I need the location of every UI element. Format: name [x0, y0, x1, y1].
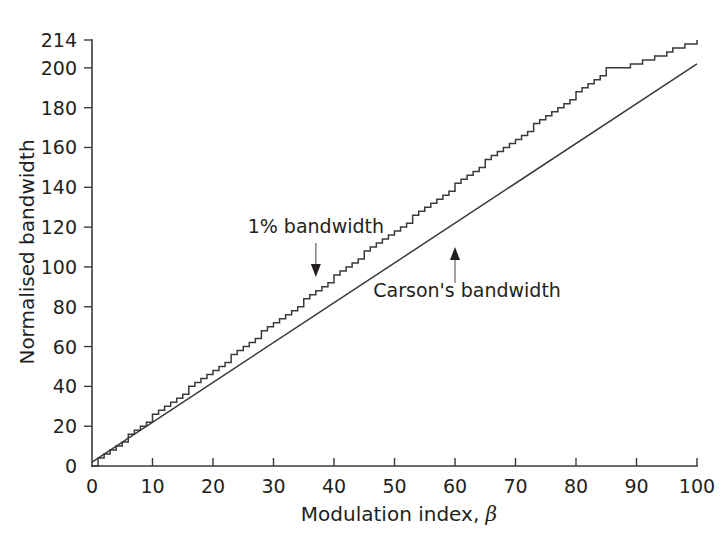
- figure-container: 0102030405060708090100 02040608010012014…: [0, 0, 728, 540]
- annotation-label-carson-s-bandwidth: Carson's bandwidth: [373, 279, 561, 301]
- y-tick-label: 120: [41, 216, 77, 238]
- y-tick-label: 200: [41, 57, 77, 79]
- bandwidth-chart: 0102030405060708090100 02040608010012014…: [0, 0, 728, 540]
- y-tick-label: 60: [53, 336, 77, 358]
- x-tick-label: 90: [624, 475, 648, 497]
- annotation-label-1-bandwidth: 1% bandwidth: [248, 215, 384, 237]
- y-axis-title: Normalised bandwidth: [15, 139, 39, 364]
- x-axis-title: Modulation index, β: [301, 502, 497, 526]
- y-tick-label: 160: [41, 136, 77, 158]
- y-tick-label: 100: [41, 256, 77, 278]
- x-tick-label: 0: [86, 475, 98, 497]
- x-tick-label: 10: [140, 475, 164, 497]
- x-tick-label: 80: [564, 475, 588, 497]
- y-tick-label: 140: [41, 176, 77, 198]
- x-tick-label: 100: [679, 475, 715, 497]
- y-tick-label: 80: [53, 296, 77, 318]
- y-tick-label: 0: [65, 455, 77, 477]
- y-tick-label: 40: [53, 375, 77, 397]
- x-tick-label: 20: [201, 475, 225, 497]
- x-tick-label: 70: [503, 475, 527, 497]
- x-tick-label: 30: [261, 475, 285, 497]
- y-tick-label: 20: [53, 415, 77, 437]
- x-tick-label: 60: [443, 475, 467, 497]
- x-tick-label: 40: [322, 475, 346, 497]
- beta-symbol: β: [485, 502, 498, 526]
- y-tick-label: 180: [41, 97, 77, 119]
- chart-background: [0, 0, 728, 540]
- y-tick-label: 214: [41, 29, 77, 51]
- x-tick-label: 50: [382, 475, 406, 497]
